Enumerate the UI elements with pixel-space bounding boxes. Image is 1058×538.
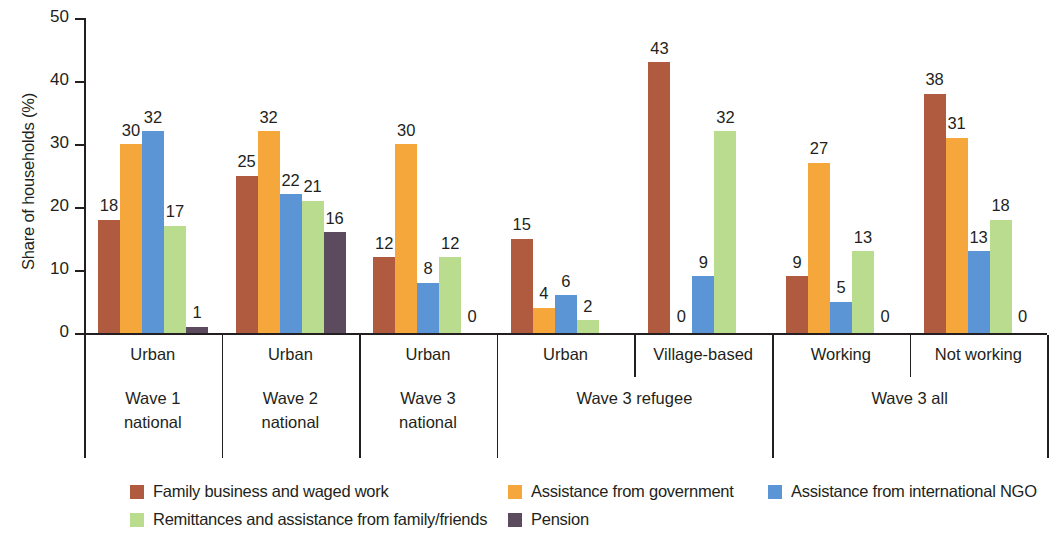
bar [648, 62, 670, 333]
bar-value-label: 13 [969, 229, 987, 246]
wave-band-label: Wave 3national [359, 387, 497, 435]
bar [417, 283, 439, 333]
bar-slot: 18 [990, 18, 1012, 333]
bar-value-label: 21 [303, 178, 321, 195]
bar-slot: 16 [324, 18, 346, 333]
legend-swatch-icon [508, 485, 522, 499]
legend-label: Remittances and assistance from family/f… [153, 510, 487, 529]
bar [302, 201, 324, 333]
category-sub-separator [634, 335, 636, 377]
bar [324, 232, 346, 333]
wave-band-label-line: Wave 3 refugee [497, 387, 772, 411]
bar-value-label: 15 [513, 216, 531, 233]
y-tick-mark [75, 333, 84, 335]
bar-value-label: 4 [539, 285, 548, 302]
bar-slot: 13 [852, 18, 874, 333]
bar-group: 383113180 [910, 18, 1048, 333]
wave-band-separator [1047, 335, 1049, 458]
bar [714, 131, 736, 333]
wave-band-label-line: Wave 3 all [772, 387, 1047, 411]
bar-group-bars: 183032171 [98, 18, 208, 333]
bar-group-bars: 430932 [648, 18, 758, 333]
bar-value-label: 17 [166, 203, 184, 220]
chart-legend: Family business and waged workAssistance… [130, 480, 1050, 538]
bar-value-label: 43 [650, 40, 668, 57]
category-label: Urban [84, 345, 222, 364]
wave-band-label-line: national [84, 411, 222, 435]
bar-chart: Share of households (%) 01020304050 1830… [0, 0, 1058, 538]
bar-slot: 9 [786, 18, 808, 333]
bar [852, 251, 874, 333]
category-label: Working [772, 345, 910, 364]
bar-group: 183032171 [84, 18, 222, 333]
bar-slot: 38 [924, 18, 946, 333]
bar [555, 295, 577, 333]
bar-slot: 2 [577, 18, 599, 333]
bar-group: 2532222116 [222, 18, 360, 333]
legend-item[interactable]: Assistance from international NGO [768, 482, 1037, 501]
bar-value-label: 2 [583, 298, 592, 315]
category-axis-band: UrbanUrbanUrbanUrbanVillage-basedWorking… [84, 335, 1047, 460]
bar-value-label: 0 [468, 308, 477, 325]
bar-slot: 0 [670, 18, 692, 333]
wave-band-label: Wave 3 refugee [497, 387, 772, 411]
wave-band-label-line: Wave 1 [84, 387, 222, 411]
legend-label: Pension [531, 510, 589, 529]
y-tick-label: 40 [50, 70, 69, 90]
category-label: Urban [497, 345, 635, 364]
bar-slot: 1 [186, 18, 208, 333]
bar-slot: 32 [258, 18, 280, 333]
bar-slot: 31 [946, 18, 968, 333]
wave-band-label: Wave 3 all [772, 387, 1047, 411]
bar-slot: 0 [1012, 18, 1034, 333]
legend-item[interactable]: Pension [508, 510, 589, 529]
legend-item[interactable]: Assistance from government [508, 482, 734, 501]
plot-area: 01020304050 1830321712532222116123081201… [84, 18, 1047, 333]
bar-slot: 32 [142, 18, 164, 333]
bar-group-bars: 15462 [511, 18, 621, 333]
bar-slot: 9 [692, 18, 714, 333]
bar-value-label: 38 [925, 71, 943, 88]
legend-item[interactable]: Remittances and assistance from family/f… [130, 510, 487, 529]
bar-slot: 22 [280, 18, 302, 333]
bar-slot: 0 [461, 18, 483, 333]
bar-slot: 18 [98, 18, 120, 333]
bar-value-label: 30 [397, 122, 415, 139]
bar-value-label: 6 [561, 273, 570, 290]
bar-value-label: 13 [854, 229, 872, 246]
category-sub-separator [910, 335, 912, 377]
bar [533, 308, 555, 333]
bar-value-label: 27 [810, 140, 828, 157]
legend-swatch-icon [508, 513, 522, 527]
bar-value-label: 31 [947, 115, 965, 132]
legend-swatch-icon [768, 485, 782, 499]
bar [439, 257, 461, 333]
bar-slot: 6 [555, 18, 577, 333]
wave-band-label: Wave 2national [222, 387, 360, 435]
bar-value-label: 18 [100, 197, 118, 214]
category-label: Urban [222, 345, 360, 364]
y-tick-label: 50 [50, 7, 69, 27]
bar [924, 94, 946, 333]
bar [946, 138, 968, 333]
bar [280, 194, 302, 333]
bar-group: 12308120 [359, 18, 497, 333]
bar-value-label: 30 [122, 122, 140, 139]
bar-slot [736, 18, 758, 333]
y-tick-mark [75, 81, 84, 83]
bar-slot: 25 [236, 18, 258, 333]
bar-group: 430932 [634, 18, 772, 333]
bar-value-label: 12 [375, 235, 393, 252]
bar-slot: 13 [968, 18, 990, 333]
legend-swatch-icon [130, 513, 144, 527]
wave-band-label-line: Wave 3 [359, 387, 497, 411]
bar-slot: 5 [830, 18, 852, 333]
y-tick-label: 10 [50, 259, 69, 279]
y-tick-mark [75, 144, 84, 146]
legend-item[interactable]: Family business and waged work [130, 482, 389, 501]
legend-label: Family business and waged work [153, 482, 389, 501]
bar-slot: 15 [511, 18, 533, 333]
bar-value-label: 0 [880, 308, 889, 325]
bar [258, 131, 280, 333]
bar-group-bars: 12308120 [373, 18, 483, 333]
